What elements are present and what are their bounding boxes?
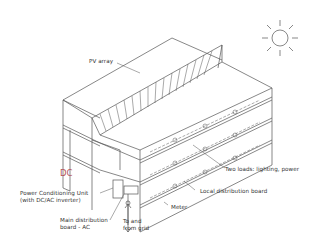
sun-icon <box>262 20 298 56</box>
label-pcu-line2: (with DC/AC inverter) <box>20 197 81 203</box>
label-pv-array: PV array <box>89 58 113 64</box>
leader-lines <box>100 63 225 220</box>
building <box>63 38 272 232</box>
label-loads: Two loads: lighting, power <box>225 166 299 172</box>
label-grid-line2: from grid <box>123 225 149 231</box>
label-grid-line1: To and <box>123 218 142 224</box>
label-main-board-line1: Main distribution <box>60 217 108 223</box>
label-main-board-line2: board - AC <box>60 224 90 230</box>
label-meter: Meter <box>171 204 187 210</box>
label-dc: DC <box>60 168 72 178</box>
label-pcu-line1: Power Conditioning Unit <box>20 190 88 196</box>
label-local-board: Local distribution board <box>200 188 267 194</box>
pv-building-diagram <box>0 0 321 247</box>
